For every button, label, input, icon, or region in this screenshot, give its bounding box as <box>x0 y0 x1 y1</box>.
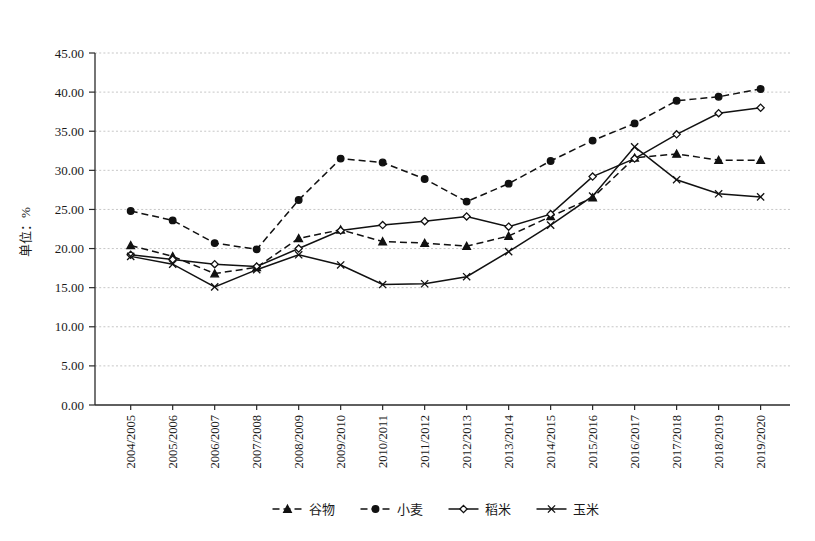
x-tick-label: 2007/2008 <box>250 415 264 468</box>
x-tick-label: 2015/2016 <box>586 415 600 468</box>
series-lines <box>131 89 761 287</box>
legend-label: 稻米 <box>485 502 511 517</box>
data-point-marker <box>463 213 470 220</box>
data-point-marker <box>631 120 638 127</box>
chart-container: 0.005.0010.0015.0020.0025.0030.0035.0040… <box>0 0 815 541</box>
y-axis-tick-labels: 0.005.0010.0015.0020.0025.0030.0035.0040… <box>55 46 84 413</box>
x-tick-label: 2011/2012 <box>418 415 432 468</box>
y-tick-label: 40.00 <box>55 85 84 100</box>
y-tick-label: 35.00 <box>55 124 84 139</box>
data-point-marker <box>211 240 218 247</box>
x-tick-label: 2004/2005 <box>124 415 138 468</box>
series-line-3 <box>131 147 761 287</box>
line-chart: 0.005.0010.0015.0020.0025.0030.0035.0040… <box>0 0 815 541</box>
data-point-marker <box>421 218 428 225</box>
y-tick-label: 0.00 <box>61 398 84 413</box>
y-tick-label: 20.00 <box>55 241 84 256</box>
y-tick-label: 25.00 <box>55 202 84 217</box>
y-tick-label: 10.00 <box>55 319 84 334</box>
data-point-marker <box>505 232 513 239</box>
data-point-marker <box>673 176 680 183</box>
x-tick-label: 2006/2007 <box>208 415 222 468</box>
data-point-marker <box>589 137 596 144</box>
x-tick-label: 2008/2009 <box>292 415 306 468</box>
x-tick-label: 2018/2019 <box>712 415 726 468</box>
data-point-marker <box>463 198 470 205</box>
y-axis-title: 单位：% <box>18 207 33 257</box>
data-point-marker <box>673 97 680 104</box>
data-point-marker <box>253 246 260 253</box>
x-tick-label: 2014/2015 <box>544 415 558 468</box>
gridlines <box>95 53 790 366</box>
data-point-marker <box>757 104 764 111</box>
x-tick-label: 2009/2010 <box>334 415 348 468</box>
x-tick-label: 2017/2018 <box>670 415 684 468</box>
data-point-marker <box>379 159 386 166</box>
x-tick-label: 2012/2013 <box>460 415 474 468</box>
data-point-marker <box>547 221 554 228</box>
data-point-marker <box>169 217 176 224</box>
data-point-marker <box>295 245 302 252</box>
series-line-2 <box>131 108 761 267</box>
x-tick-label: 2013/2014 <box>502 414 516 468</box>
legend-label: 玉米 <box>573 502 599 517</box>
data-point-marker <box>421 176 428 183</box>
x-tick-label: 2019/2020 <box>754 415 768 468</box>
data-point-marker <box>211 283 218 290</box>
data-point-marker <box>757 86 764 93</box>
data-point-marker <box>673 131 680 138</box>
data-point-marker <box>631 143 638 150</box>
data-point-marker <box>211 261 218 268</box>
series-line-1 <box>131 89 761 249</box>
data-point-marker <box>127 208 134 215</box>
y-tick-label: 30.00 <box>55 163 84 178</box>
legend-label: 谷物 <box>309 502 335 517</box>
legend-label: 小麦 <box>397 502 423 517</box>
data-point-marker <box>715 94 722 101</box>
data-point-marker <box>460 505 467 512</box>
data-point-marker <box>372 506 379 513</box>
x-axis-tick-labels: 2004/20052005/20062006/20072007/20082008… <box>124 414 768 468</box>
x-tick-label: 2005/2006 <box>166 415 180 468</box>
x-tick-label: 2016/2017 <box>628 415 642 468</box>
data-point-marker <box>127 242 135 249</box>
data-point-marker <box>715 110 722 117</box>
data-point-marker <box>337 155 344 162</box>
x-tick-label: 2010/2011 <box>376 415 390 468</box>
data-point-marker <box>757 156 765 163</box>
chart-legend: 谷物小麦稻米玉米 <box>273 502 599 517</box>
data-point-marker <box>505 223 512 230</box>
y-tick-label: 5.00 <box>61 358 84 373</box>
data-point-marker <box>505 248 512 255</box>
data-point-marker <box>295 235 303 242</box>
series-markers <box>127 86 765 291</box>
data-point-marker <box>295 197 302 204</box>
data-point-marker <box>505 180 512 187</box>
y-tick-label: 45.00 <box>55 46 84 61</box>
y-tick-label: 15.00 <box>55 280 84 295</box>
data-point-marker <box>379 221 386 228</box>
data-point-marker <box>547 158 554 165</box>
